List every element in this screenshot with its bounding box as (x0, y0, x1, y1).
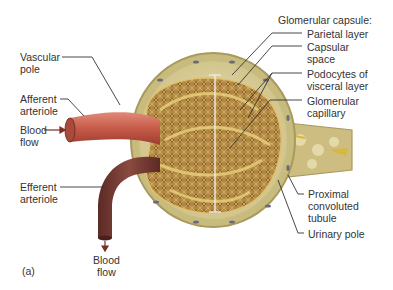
label-vascular-pole: Vascular pole (20, 51, 60, 75)
glomerulus-shape (146, 78, 281, 213)
label-urinary-pole: Urinary pole (308, 228, 365, 240)
label-proximal-tubule: Proximal convoluted tubule (308, 188, 359, 224)
label-efferent-arteriole: Efferent arteriole (20, 181, 58, 205)
label-podocytes: Podocytes of visceral layer (307, 68, 368, 92)
label-glomerular-capsule: Glomerular capsule: (278, 14, 372, 26)
label-capsular-space: Capsular space (307, 41, 349, 65)
label-afferent-arteriole: Afferent arteriole (20, 93, 58, 117)
label-glomerular-capillary: Glomerular capillary (307, 95, 359, 119)
label-blood-flow-out: Blood flow (93, 254, 120, 278)
renal-corpuscle-diagram: Vascular pole Afferent arteriole Blood f… (0, 0, 393, 290)
label-blood-flow-in: Blood flow (20, 124, 47, 148)
afferent-arteriole-shape (70, 112, 160, 145)
panel-label: (a) (22, 265, 35, 277)
label-parietal-layer: Parietal layer (307, 28, 368, 40)
